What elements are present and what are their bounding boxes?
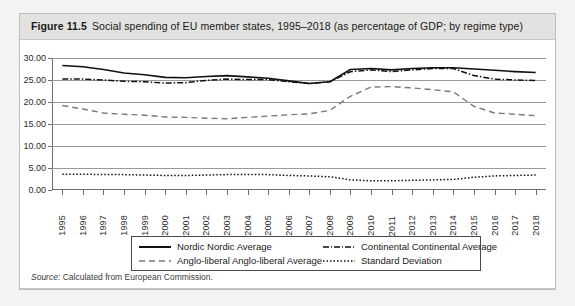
x-axis-tick-mark <box>474 190 475 195</box>
legend-label-continental: Continental Continental Average <box>361 241 497 252</box>
series-line <box>62 87 535 119</box>
series-lines <box>52 58 546 190</box>
chart-legend: Nordic Nordic Average Anglo-liberal Angl… <box>131 236 481 271</box>
figure-number: Figure 11.5 <box>31 20 87 32</box>
x-axis-tick-label: 2014 <box>448 215 458 236</box>
x-axis-tick-mark <box>495 190 496 195</box>
source-text: Calculated from European Commission. <box>63 272 213 282</box>
x-axis-tick-mark <box>248 190 249 195</box>
x-axis-tick-mark <box>124 190 125 195</box>
legend-item-continental: Continental Continental Average <box>322 241 497 252</box>
x-axis-tick-mark <box>165 190 166 195</box>
x-axis-tick-label: 1999 <box>140 215 150 236</box>
x-axis-tick-mark <box>371 190 372 195</box>
legend-label-standard-deviation: Standard Deviation <box>361 255 442 266</box>
x-axis-tick-mark <box>536 190 537 195</box>
figure-title: Social spending of EU member states, 199… <box>92 20 523 32</box>
x-axis-tick-label: 1997 <box>98 215 108 236</box>
y-axis-tick-label: 0.00 <box>6 185 46 195</box>
source-note: Source: Calculated from European Commiss… <box>31 272 213 282</box>
x-axis-tick-mark <box>330 190 331 195</box>
y-axis-tick-label: 30.00 <box>6 53 46 63</box>
series-line <box>62 69 535 84</box>
legend-item-nordic: Nordic Nordic Average <box>138 241 272 252</box>
legend-swatch-anglo-liberal-icon <box>138 256 172 266</box>
chart-plot-area: 0.005.0010.0015.0020.0025.0030.00 199519… <box>52 58 546 190</box>
legend-swatch-continental-icon <box>322 242 356 252</box>
x-axis-tick-label: 1998 <box>119 215 129 236</box>
figure-container: Figure 11.5Social spending of EU member … <box>19 13 556 290</box>
figure-caption: Figure 11.5Social spending of EU member … <box>31 20 523 32</box>
x-axis-tick-mark <box>453 190 454 195</box>
bottom-divider <box>20 288 555 289</box>
x-axis-tick-mark <box>268 190 269 195</box>
y-axis-tick-label: 25.00 <box>6 75 46 85</box>
x-axis-tick-label: 1996 <box>78 215 88 236</box>
x-axis-tick-label: 2001 <box>181 215 191 236</box>
x-axis-tick-label: 2018 <box>531 215 541 236</box>
y-axis-tick-label: 5.00 <box>6 163 46 173</box>
x-axis-tick-label: 2015 <box>469 215 479 236</box>
x-axis-tick-mark <box>83 190 84 195</box>
source-label: Source: <box>31 272 60 282</box>
x-axis-tick-mark <box>350 190 351 195</box>
x-axis-tick-mark <box>186 190 187 195</box>
y-axis-tick-label: 20.00 <box>6 97 46 107</box>
legend-swatch-standard-deviation-icon <box>322 256 356 266</box>
x-axis-tick-mark <box>227 190 228 195</box>
y-axis-tick-label: 10.00 <box>6 141 46 151</box>
legend-label-anglo-liberal: Anglo-liberal Anglo-liberal Average <box>177 255 322 266</box>
x-axis-tick-label: 2006 <box>284 215 294 236</box>
y-axis-tick-label: 15.00 <box>6 119 46 129</box>
x-axis-tick-label: 2004 <box>243 215 253 236</box>
x-axis-tick-label: 2009 <box>345 215 355 236</box>
x-axis-tick-mark <box>145 190 146 195</box>
legend-item-standard-deviation: Standard Deviation <box>322 255 442 266</box>
x-axis-tick-label: 2003 <box>222 215 232 236</box>
plot-frame: 0.005.0010.0015.0020.0025.0030.00 199519… <box>52 58 546 190</box>
x-axis-tick-label: 1995 <box>57 215 67 236</box>
x-axis-tick-mark <box>103 190 104 195</box>
x-axis-tick-label: 2008 <box>325 215 335 236</box>
x-axis-tick-label: 2011 <box>387 216 397 236</box>
x-axis-tick-mark <box>412 190 413 195</box>
x-axis-tick-label: 2000 <box>160 215 170 236</box>
x-axis-tick-label: 2005 <box>263 215 273 236</box>
x-axis-tick-mark <box>62 190 63 195</box>
x-axis-tick-label: 2010 <box>366 215 376 236</box>
x-axis-tick-label: 2012 <box>407 215 417 236</box>
x-axis-tick-label: 2017 <box>510 215 520 236</box>
x-axis-tick-mark <box>433 190 434 195</box>
series-line <box>62 174 535 181</box>
x-axis-tick-label: 2002 <box>201 215 211 236</box>
y-axis-tick-mark <box>48 190 52 191</box>
x-axis-tick-mark <box>206 190 207 195</box>
legend-item-anglo-liberal: Anglo-liberal Anglo-liberal Average <box>138 255 322 266</box>
x-axis-tick-label: 2013 <box>428 215 438 236</box>
x-axis-tick-mark <box>392 190 393 195</box>
x-axis-tick-label: 2007 <box>304 215 314 236</box>
x-axis-tick-mark <box>515 190 516 195</box>
x-axis-tick-mark <box>289 190 290 195</box>
legend-label-nordic: Nordic Nordic Average <box>177 241 272 252</box>
x-axis-tick-label: 2016 <box>490 215 500 236</box>
legend-swatch-nordic-icon <box>138 242 172 252</box>
x-axis-tick-mark <box>309 190 310 195</box>
